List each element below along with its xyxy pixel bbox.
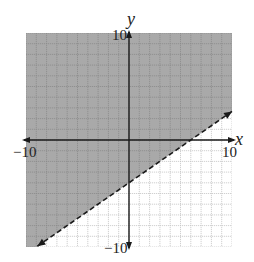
y-min-label: −10 — [104, 240, 127, 256]
inequality-graph: −10 10 10 −10 x y — [0, 0, 254, 262]
x-min-label: −10 — [13, 144, 36, 160]
x-axis-label: x — [234, 129, 243, 149]
y-max-label: 10 — [112, 27, 127, 43]
y-axis-label: y — [125, 9, 135, 29]
